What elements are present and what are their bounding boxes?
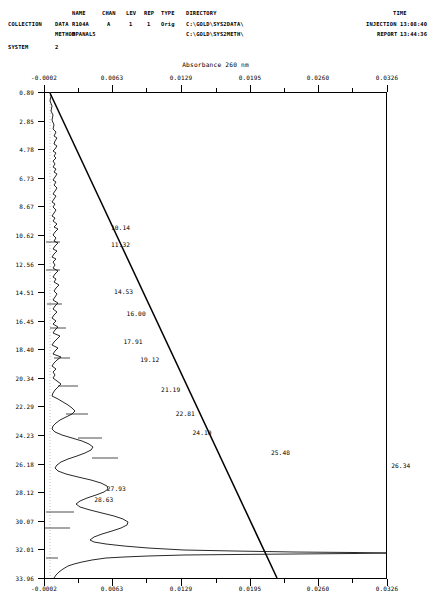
header-col-rep: REP [144,10,154,17]
y-tick-label: 16.45 [8,317,34,324]
header-system-value: 2 [55,44,58,51]
x-tick-mark [44,85,45,92]
header-method-directory: C:\GOLD\SYS2METH\ [186,31,244,38]
gradient-line [50,93,277,578]
y-tick-label: 32.01 [8,546,34,553]
header-data-name: R104A [72,21,89,28]
chromatogram-plot: Absorbance 260 nm -0.00020.00630.01290.0… [0,58,431,616]
header-col-directory: DIRECTORY [186,10,217,17]
x-tick-label: 0.0326 [376,585,398,592]
y-tick-label: 0.89 [8,89,34,96]
report-header: NAME CHAN LEV REP TYPE DIRECTORY TIME CO… [0,0,431,58]
header-chan-value: A [107,21,110,28]
x-tick-mark [181,85,182,92]
x-tick-label: -0.0002 [31,585,57,592]
x-tick-mark [112,85,113,92]
header-type-value: Orig [161,21,175,28]
x-tick-mark [387,85,388,92]
peak-label: 26.34 [391,462,410,469]
y-tick-label: 20.34 [8,374,34,381]
header-col-lev: LEV [126,10,136,17]
x-tick-label: 0.0326 [376,74,398,81]
header-system-label: SYSTEM [8,44,28,51]
y-tick-label: 22.29 [8,403,34,410]
header-col-name: NAME [72,10,86,17]
y-tick-mark [38,578,44,579]
y-tick-label: 10.62 [8,231,34,238]
y-tick-label: 2.85 [8,117,34,124]
x-tick-label: 0.0260 [307,74,329,81]
header-col-time: TIME [393,10,407,17]
chromatogram-trace-svg [44,92,387,578]
y-tick-label: 24.23 [8,432,34,439]
header-rep-value: 1 [147,21,150,28]
x-tick-mark-minor [216,579,217,583]
y-tick-label: 12.56 [8,260,34,267]
y-tick-label: 6.73 [8,174,34,181]
x-tick-mark-minor [352,579,353,583]
header-col-type: TYPE [161,10,175,17]
x-tick-label: -0.0002 [31,74,57,81]
x-tick-mark [387,579,388,586]
x-tick-label: 0.0129 [170,585,192,592]
header-lev-value: 1 [129,21,132,28]
x-tick-mark [250,579,251,586]
x-tick-mark-minor [146,579,147,583]
header-report-time: 13:44:36 [400,31,427,38]
y-tick-label: 26.18 [8,460,34,467]
header-injection-label: INJECTION [366,21,397,28]
x-tick-mark [318,579,319,586]
x-tick-mark [250,85,251,92]
x-tick-mark [181,579,182,586]
header-report-label: REPORT [377,31,397,38]
header-data-directory: C:\GOLD\SYS2DATA\ [186,21,244,28]
x-tick-label: 0.0129 [170,74,192,81]
x-tick-mark [318,85,319,92]
x-tick-label: 0.0063 [101,585,123,592]
x-tick-mark [44,579,45,586]
x-tick-label: 0.0260 [307,585,329,592]
absorbance-axis-title: Absorbance 260 nm [0,61,431,68]
y-tick-label: 14.51 [8,289,34,296]
y-tick-label: 18.40 [8,346,34,353]
header-injection-time: 13:08:40 [400,21,427,28]
y-tick-label: 28.12 [8,489,34,496]
y-tick-label: 33.96 [8,575,34,582]
header-method-name: MPANAL5 [72,31,96,38]
x-tick-label: 0.0063 [101,74,123,81]
y-tick-label: 8.67 [8,203,34,210]
y-tick-label: 4.78 [8,146,34,153]
x-tick-label: 0.0195 [239,585,261,592]
x-tick-mark-minor [284,579,285,583]
absorbance-trace [50,92,387,578]
header-collection-label: COLLECTION [8,21,42,28]
x-tick-label: 0.0195 [239,74,261,81]
header-col-chan: CHAN [102,10,116,17]
header-data-label: DATA [55,21,69,28]
x-tick-mark-minor [78,579,79,583]
y-tick-label: 30.07 [8,517,34,524]
x-tick-mark [112,579,113,586]
